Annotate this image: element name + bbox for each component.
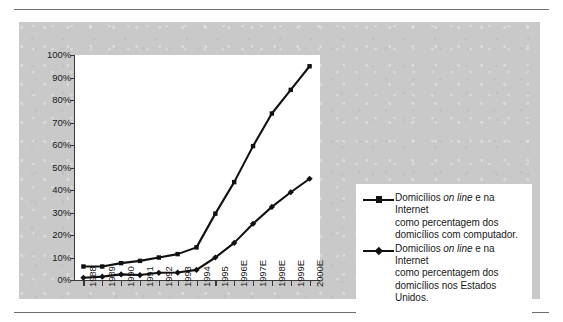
data-point-marker xyxy=(99,274,105,280)
x-axis-tick-mark xyxy=(140,281,141,286)
data-point-marker xyxy=(118,271,124,277)
data-point-marker xyxy=(100,264,104,268)
series-plot xyxy=(74,55,320,281)
data-point-marker xyxy=(175,269,181,275)
legend-square-marker-icon xyxy=(362,193,395,206)
x-axis-tick-mark xyxy=(159,281,160,286)
legend-diamond-marker-icon xyxy=(362,244,395,257)
data-point-marker xyxy=(213,211,217,215)
x-axis-tick-mark xyxy=(215,281,216,286)
data-point-marker xyxy=(81,264,85,268)
x-axis-tick-mark xyxy=(234,281,235,286)
data-point-marker xyxy=(289,88,293,92)
data-point-marker xyxy=(137,272,143,278)
data-point-marker xyxy=(138,259,142,263)
data-point-marker xyxy=(119,261,123,265)
series-group xyxy=(81,64,312,269)
x-axis-tick-mark xyxy=(272,281,273,286)
chart-legend: Domicílios on line e na Internet como pe… xyxy=(356,184,532,315)
data-point-marker xyxy=(270,111,274,115)
data-point-marker xyxy=(157,255,161,259)
legend-label-us-households: Domicílios on line e na Internet como pe… xyxy=(395,243,525,305)
legend-label-computer-households: Domicílios on line e na Internet como pe… xyxy=(395,192,525,242)
data-point-marker xyxy=(194,245,198,249)
x-axis-tick-mark xyxy=(102,281,103,286)
x-axis-tick-mark xyxy=(121,281,122,286)
data-point-marker xyxy=(80,275,86,281)
data-point-marker xyxy=(307,64,311,68)
legend-item-us-households: Domicílios on line e na Internet como pe… xyxy=(362,243,525,305)
x-axis-tick-mark xyxy=(291,281,292,286)
x-axis-tick-mark xyxy=(178,281,179,286)
x-axis-tick-mark xyxy=(197,281,198,286)
top-divider-rule xyxy=(14,9,549,10)
data-point-marker xyxy=(251,144,255,148)
series-line xyxy=(83,66,309,266)
chart-panel: 100%90%80%70%60%50%40%30%20%10%0% 198819… xyxy=(19,22,540,299)
x-axis-tick-mark xyxy=(83,281,84,286)
x-axis-tick-mark xyxy=(253,281,254,286)
data-point-marker xyxy=(232,180,236,184)
legend-item-computer-households: Domicílios on line e na Internet como pe… xyxy=(362,192,525,242)
x-axis-tick-mark xyxy=(310,281,311,286)
data-point-marker xyxy=(175,252,179,256)
figure-container: 100%90%80%70%60%50%40%30%20%10%0% 198819… xyxy=(0,0,563,322)
data-point-marker xyxy=(156,270,162,276)
